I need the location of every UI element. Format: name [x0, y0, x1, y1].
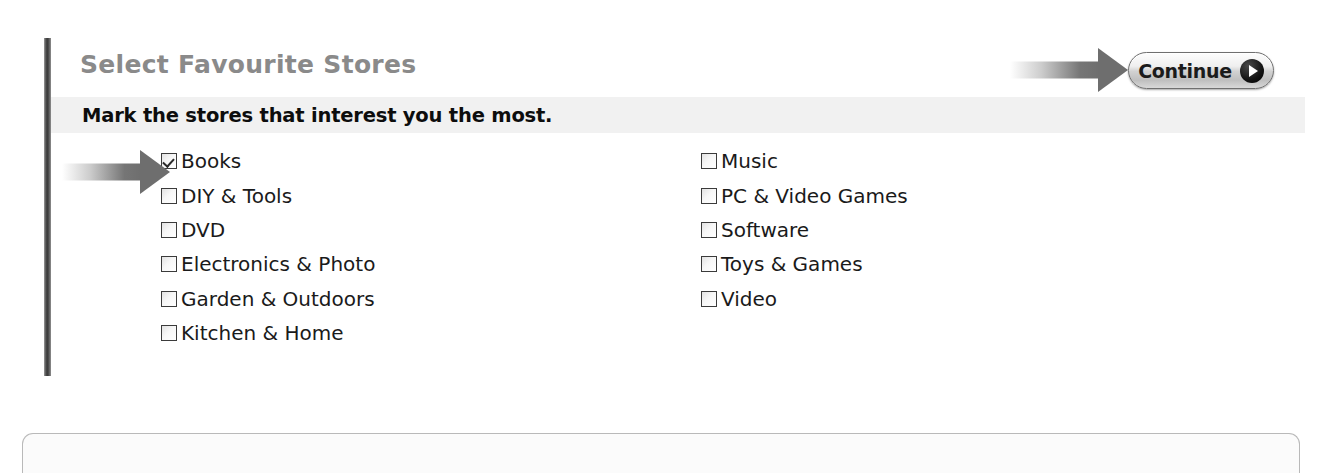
arrow-right-icon-books: [62, 150, 170, 194]
store-option-label: Electronics & Photo: [181, 254, 375, 274]
arrow-head: [1098, 48, 1128, 92]
store-option-label: Books: [181, 151, 241, 171]
checkbox-unchecked[interactable]: [701, 291, 717, 307]
page-subtitle: Mark the stores that interest you the mo…: [82, 104, 552, 127]
checkbox-unchecked[interactable]: [701, 222, 717, 238]
store-column-left: BooksDIY & ToolsDVDElectronics & PhotoGa…: [161, 144, 375, 350]
checkbox-unchecked[interactable]: [161, 325, 177, 341]
store-option-row[interactable]: Toys & Games: [701, 247, 908, 281]
store-option-label: Toys & Games: [721, 254, 863, 274]
store-option-row[interactable]: Video: [701, 282, 908, 316]
store-option-label: Software: [721, 220, 809, 240]
store-option-row[interactable]: DVD: [161, 213, 375, 247]
checkbox-unchecked[interactable]: [161, 291, 177, 307]
store-option-label: Music: [721, 151, 778, 171]
continue-button-label: Continue: [1138, 60, 1232, 82]
store-option-row[interactable]: Garden & Outdoors: [161, 282, 375, 316]
arrow-tail: [62, 164, 142, 181]
checkbox-unchecked[interactable]: [161, 256, 177, 272]
arrow-tail: [1010, 62, 1100, 79]
continue-button[interactable]: Continue: [1128, 52, 1274, 89]
checkbox-unchecked[interactable]: [701, 256, 717, 272]
checkbox-unchecked[interactable]: [701, 188, 717, 204]
store-column-right: MusicPC & Video GamesSoftwareToys & Game…: [701, 144, 908, 316]
left-accent-rule: [44, 38, 51, 376]
store-option-label: Garden & Outdoors: [181, 289, 375, 309]
checkbox-unchecked[interactable]: [161, 222, 177, 238]
play-circle-icon: [1240, 59, 1264, 83]
page-title: Select Favourite Stores: [80, 50, 416, 79]
store-option-label: Video: [721, 289, 777, 309]
store-option-row[interactable]: Electronics & Photo: [161, 247, 375, 281]
store-option-row[interactable]: PC & Video Games: [701, 178, 908, 212]
arrow-head: [140, 150, 170, 194]
store-option-row[interactable]: Software: [701, 213, 908, 247]
store-option-label: DIY & Tools: [181, 186, 292, 206]
store-option-label: PC & Video Games: [721, 186, 908, 206]
store-option-row[interactable]: Books: [161, 144, 375, 178]
checkbox-unchecked[interactable]: [701, 153, 717, 169]
bottom-panel-container: [22, 433, 1300, 473]
store-option-row[interactable]: DIY & Tools: [161, 178, 375, 212]
store-option-label: Kitchen & Home: [181, 323, 344, 343]
store-option-row[interactable]: Music: [701, 144, 908, 178]
store-option-label: DVD: [181, 220, 225, 240]
store-option-row[interactable]: Kitchen & Home: [161, 316, 375, 350]
arrow-right-icon-continue: [1010, 48, 1130, 92]
